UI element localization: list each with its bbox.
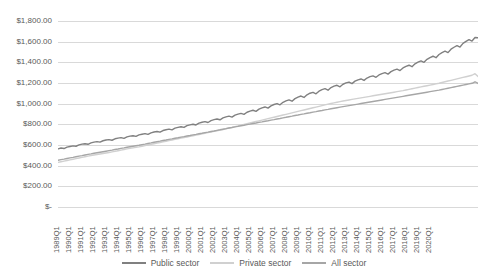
- x-axis-tick-label: 1997Q1: [149, 226, 157, 253]
- y-axis-tick-label: $600.00: [0, 141, 52, 149]
- x-axis-tick-label: 2011Q1: [317, 227, 325, 253]
- legend-item[interactable]: Public sector: [122, 258, 200, 268]
- y-axis-tick-label: $1,600.00: [0, 38, 52, 46]
- y-axis-tick-label: $800.00: [0, 120, 52, 128]
- y-axis-tick-label: $200.00: [0, 182, 52, 190]
- x-axis-tick-label: 1992Q1: [89, 226, 97, 253]
- legend-label: Public sector: [151, 258, 200, 268]
- x-axis-tick-label: 2018Q1: [401, 226, 409, 253]
- legend-label: Private sector: [239, 258, 291, 268]
- x-axis-tick-label: 1991Q1: [77, 226, 85, 253]
- x-axis-tick-label: 1998Q1: [161, 226, 169, 253]
- x-axis-tick-label: 1993Q1: [101, 226, 109, 253]
- x-axis-tick-label: 2012Q1: [329, 226, 337, 253]
- series-line: [58, 82, 478, 161]
- y-axis-labels: $1,800.00$1,600.00$1,400.00$1,200.00$1,0…: [0, 21, 52, 207]
- x-axis-tick-label: 2002Q1: [209, 226, 217, 253]
- legend-swatch-icon: [122, 262, 146, 264]
- x-axis-tick-label: 2009Q1: [293, 226, 301, 253]
- line-chart: $1,800.00$1,600.00$1,400.00$1,200.00$1,0…: [0, 0, 488, 280]
- y-axis-tick-label: $1,800.00: [0, 17, 52, 25]
- x-axis-tick-label: 2015Q1: [365, 226, 373, 253]
- series-line: [58, 37, 478, 148]
- x-axis-tick-label: 2020Q1: [425, 226, 433, 253]
- y-axis-tick-label: $1,400.00: [0, 58, 52, 66]
- x-axis-labels: 1989Q11990Q11991Q11992Q11993Q11994Q11995…: [58, 209, 478, 253]
- x-axis-tick-label: 2010Q1: [305, 226, 313, 253]
- x-axis-tick-label: 1996Q1: [137, 226, 145, 253]
- y-axis-tick-label: $-: [0, 203, 52, 211]
- x-axis-tick-label: 2016Q1: [377, 226, 385, 253]
- x-axis-tick-label: 1990Q1: [65, 226, 73, 253]
- x-axis-tick-label: 2000Q1: [185, 226, 193, 253]
- x-axis-tick-label: 1999Q1: [173, 226, 181, 253]
- x-axis-tick-label: 2008Q1: [281, 226, 289, 253]
- x-axis-tick-label: 1995Q1: [125, 226, 133, 253]
- x-axis-tick-label: 2005Q1: [245, 226, 253, 253]
- legend-swatch-icon: [302, 262, 326, 264]
- x-axis-tick-label: 2006Q1: [257, 226, 265, 253]
- x-axis-tick-label: 1989Q1: [53, 226, 61, 253]
- x-axis-tick-label: 2001Q1: [197, 226, 205, 253]
- series-lines: [58, 21, 478, 207]
- x-axis-tick-label: 2017Q1: [389, 226, 397, 253]
- x-axis-tick-label: 2019Q1: [413, 226, 421, 253]
- plot-area: [58, 21, 478, 207]
- legend-item[interactable]: All sector: [302, 258, 366, 268]
- y-axis-tick-label: $400.00: [0, 162, 52, 170]
- legend-label: All sector: [331, 258, 366, 268]
- legend-swatch-icon: [210, 262, 234, 264]
- chart-legend: Public sectorPrivate sectorAll sector: [0, 258, 488, 268]
- legend-item[interactable]: Private sector: [210, 258, 291, 268]
- x-axis-tick-label: 2004Q1: [233, 226, 241, 253]
- x-axis-tick-label: 1994Q1: [113, 226, 121, 253]
- x-axis-tick-label: 2003Q1: [221, 226, 229, 253]
- y-axis-tick-label: $1,000.00: [0, 100, 52, 108]
- x-axis-tick-label: 2007Q1: [269, 226, 277, 253]
- x-axis-tick-label: 2014Q1: [353, 226, 361, 253]
- x-axis-tick-label: 2013Q1: [341, 226, 349, 253]
- y-axis-tick-label: $1,200.00: [0, 79, 52, 87]
- gridline: [58, 207, 478, 208]
